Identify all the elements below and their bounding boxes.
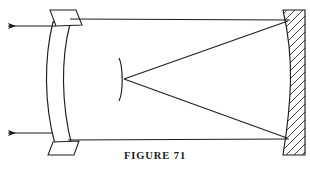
ray-upper-incoming	[70, 19, 290, 20]
corrector-top-flange	[50, 10, 82, 26]
ray-lower-incoming	[68, 139, 289, 140]
figure-caption: FIGURE 71	[0, 150, 310, 161]
ray-bundle	[68, 19, 290, 140]
secondary-mirror	[119, 58, 122, 101]
corrector-lens-body	[46, 22, 72, 146]
ray-upper-reflected	[124, 21, 288, 79]
ray-lower-reflected	[124, 79, 287, 138]
primary-mirror	[275, 0, 310, 172]
secondary-mirror-arc	[119, 58, 122, 101]
optical-ray-diagram	[0, 0, 310, 172]
figure-container: FIGURE 71	[0, 0, 310, 172]
